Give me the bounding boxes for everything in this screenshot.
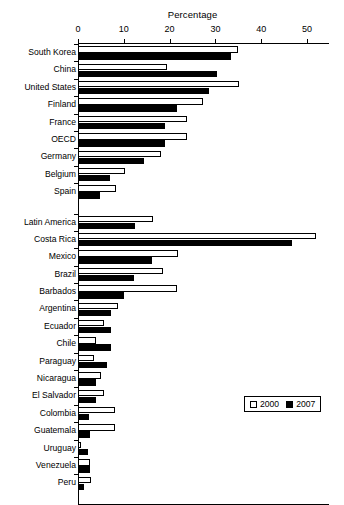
y-tick-mark	[74, 231, 78, 232]
bar-2007	[78, 105, 177, 111]
bar-2007	[78, 53, 231, 59]
bar-2000	[78, 185, 116, 191]
x-tick-label: 20	[165, 24, 175, 34]
chart-row: Uruguay	[0, 440, 344, 457]
y-tick-mark	[74, 214, 78, 215]
legend: 2000 2007	[244, 396, 321, 412]
chart-row: France	[0, 114, 344, 131]
bar-2007	[78, 192, 100, 198]
x-tick-label: 10	[119, 24, 129, 34]
bar-2007	[78, 123, 165, 129]
bar-2000	[78, 168, 125, 174]
chart-row: Costa Rica	[0, 231, 344, 248]
chart-row: Finland	[0, 96, 344, 113]
bar-2007	[78, 379, 96, 385]
y-tick-label: OECD	[0, 134, 76, 144]
group-separator	[0, 201, 344, 214]
bar-2000	[78, 424, 115, 430]
y-tick-label: China	[0, 64, 76, 74]
y-tick-label: Costa Rica	[0, 234, 76, 244]
chart-row: China	[0, 61, 344, 78]
x-tick-label: 30	[210, 24, 220, 34]
y-tick-label: Peru	[0, 477, 76, 487]
y-tick-label: El Salvador	[0, 390, 76, 400]
y-tick-mark	[74, 61, 78, 62]
y-tick-label: United States	[0, 82, 76, 92]
bar-2000	[78, 477, 91, 483]
chart-row: Venezuela	[0, 457, 344, 474]
bar-2000	[78, 151, 161, 157]
bar-2007	[78, 140, 165, 146]
bar-2007	[78, 240, 292, 246]
y-tick-mark	[74, 457, 78, 458]
y-tick-label: Latin America	[0, 217, 76, 227]
chart-row: Spain	[0, 183, 344, 200]
bar-2000	[78, 320, 104, 326]
y-tick-label: Colombia	[0, 408, 76, 418]
y-tick-mark	[74, 166, 78, 167]
bar-2000	[78, 98, 203, 104]
bar-2007	[78, 257, 152, 263]
bar-2000	[78, 355, 94, 361]
y-tick-mark	[74, 474, 78, 475]
bar-2007	[78, 414, 89, 420]
y-tick-mark	[74, 148, 78, 149]
plot-rows: South KoreaChinaUnited StatesFinlandFran…	[0, 44, 344, 492]
chart-row: Barbados	[0, 283, 344, 300]
y-tick-mark	[74, 353, 78, 354]
chart-row: Peru	[0, 474, 344, 491]
bar-2000	[78, 216, 153, 222]
open-square-icon	[250, 401, 257, 408]
chart-row: OECD	[0, 131, 344, 148]
chart-row: Mexico	[0, 248, 344, 265]
y-tick-mark	[74, 335, 78, 336]
y-tick-mark	[74, 131, 78, 132]
y-tick-label: Uruguay	[0, 443, 76, 453]
bar-2007	[78, 484, 84, 490]
bar-2000	[78, 285, 177, 291]
axis-title: Percentage	[78, 9, 307, 20]
bar-2007	[78, 88, 209, 94]
y-tick-mark	[74, 114, 78, 115]
y-tick-mark	[74, 318, 78, 319]
bar-2007	[78, 362, 107, 368]
chart-row: Ecuador	[0, 318, 344, 335]
y-tick-mark	[74, 79, 78, 80]
bar-2007	[78, 327, 111, 333]
y-tick-mark	[74, 183, 78, 184]
y-tick-mark	[74, 96, 78, 97]
y-tick-label: Mexico	[0, 251, 76, 261]
y-tick-label: Barbados	[0, 286, 76, 296]
y-tick-mark	[74, 422, 78, 423]
bar-2000	[78, 64, 167, 70]
y-tick-mark	[74, 370, 78, 371]
y-tick-mark	[74, 44, 78, 45]
y-tick-label: Nicaragua	[0, 373, 76, 383]
y-tick-label: Ecuador	[0, 321, 76, 331]
legend-label-2007: 2007	[296, 399, 315, 409]
y-tick-label: Belgium	[0, 169, 76, 179]
y-tick-label: Finland	[0, 99, 76, 109]
bar-2007	[78, 292, 124, 298]
bar-2000	[78, 133, 187, 139]
bar-2007	[78, 397, 96, 403]
legend-item-2000[interactable]: 2000	[250, 399, 279, 409]
y-tick-label: Guatemala	[0, 425, 76, 435]
y-tick-mark	[74, 248, 78, 249]
bar-2000	[78, 407, 115, 413]
legend-item-2007[interactable]: 2007	[286, 399, 315, 409]
bar-2000	[78, 81, 239, 87]
bar-2000	[78, 459, 90, 465]
bar-2007	[78, 158, 144, 164]
y-tick-label: France	[0, 117, 76, 127]
bar-2007	[78, 175, 110, 181]
y-tick-mark	[74, 387, 78, 388]
chart-row: Guatemala	[0, 422, 344, 439]
y-tick-mark	[74, 405, 78, 406]
y-tick-mark	[74, 283, 78, 284]
bar-2000	[78, 268, 163, 274]
bar-2000	[78, 303, 118, 309]
bar-2000	[78, 233, 316, 239]
bar-2007	[78, 431, 90, 437]
